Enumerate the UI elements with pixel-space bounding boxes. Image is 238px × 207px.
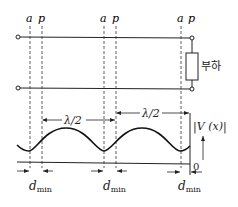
label-a-1: a	[26, 12, 33, 25]
top-conductor	[20, 37, 190, 38]
label-a-2: a	[100, 12, 107, 25]
label-p-2: p	[112, 12, 119, 25]
half-wavelength-label-2: λ/2	[141, 107, 160, 120]
point-labels: a p a p a p	[26, 12, 195, 25]
input-terminal-bottom	[16, 86, 20, 90]
load-resistor	[186, 53, 198, 80]
label-p-1: p	[38, 12, 45, 25]
x-axis-baseline	[17, 162, 190, 164]
voltage-magnitude-label: |V (x)|	[193, 120, 227, 134]
bottom-conductor	[20, 88, 190, 89]
dmin-markers	[17, 171, 202, 172]
dmin-labels: dmin dmin dmin	[29, 179, 201, 194]
origin-label: 0	[193, 161, 199, 172]
load-terminal-bottom	[190, 87, 194, 91]
load-terminal-top	[190, 36, 194, 40]
reference-lines	[30, 26, 181, 168]
standing-wave-curve	[17, 128, 190, 151]
transmission-line-diagram: a p a p a p 부하 λ/2 λ/2 0 |V (x)| dmin	[0, 0, 238, 207]
label-a-3: a	[177, 12, 184, 25]
half-wavelength-arrow-1: λ/2	[43, 114, 115, 127]
dmin-label-2: dmin	[103, 179, 126, 194]
label-p-3: p	[188, 12, 195, 25]
dmin-label-3: dmin	[178, 179, 201, 194]
dmin-label-1: dmin	[29, 179, 52, 194]
half-wavelength-label-1: λ/2	[63, 114, 82, 127]
input-terminal-top	[16, 35, 20, 39]
transmission-line	[16, 35, 198, 91]
load-label: 부하	[201, 59, 221, 73]
half-wavelength-arrow-2: λ/2	[117, 107, 189, 120]
